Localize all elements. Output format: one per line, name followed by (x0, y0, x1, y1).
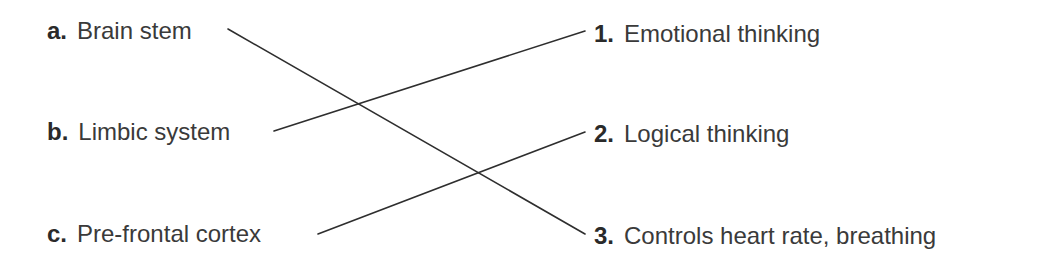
left-item-b: b.Limbic system (47, 118, 230, 146)
left-item-marker: c. (47, 220, 67, 247)
left-item-marker: b. (47, 118, 68, 145)
right-item-marker: 3. (594, 222, 614, 249)
right-item-2: 2.Logical thinking (594, 120, 789, 148)
left-item-c: c.Pre-frontal cortex (47, 220, 261, 248)
right-item-label: Logical thinking (624, 120, 789, 147)
right-item-marker: 2. (594, 120, 614, 147)
right-item-label: Emotional thinking (624, 20, 820, 47)
right-item-marker: 1. (594, 20, 614, 47)
left-item-label: Limbic system (78, 118, 230, 145)
right-item-3: 3.Controls heart rate, breathing (594, 222, 936, 250)
left-item-label: Brain stem (77, 17, 192, 44)
connector-c-to-2 (318, 132, 585, 234)
left-item-a: a.Brain stem (47, 17, 192, 45)
connector-a-to-3 (228, 29, 585, 234)
left-item-marker: a. (47, 17, 67, 44)
right-item-label: Controls heart rate, breathing (624, 222, 936, 249)
right-item-1: 1.Emotional thinking (594, 20, 820, 48)
left-item-label: Pre-frontal cortex (77, 220, 261, 247)
connector-b-to-1 (274, 31, 585, 131)
